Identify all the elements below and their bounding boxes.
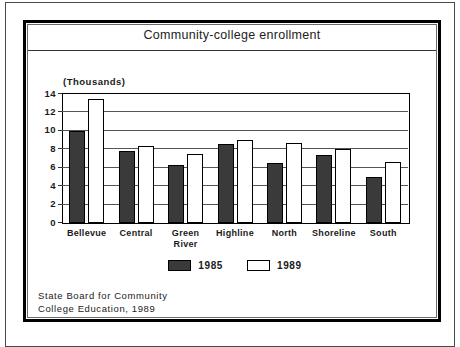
figure-frame: Community-college enrollment: [23, 20, 441, 322]
figure-frame-inner-line: [27, 24, 437, 318]
chart-title: Community-college enrollment: [26, 28, 438, 42]
title-separator-line: [28, 50, 436, 51]
